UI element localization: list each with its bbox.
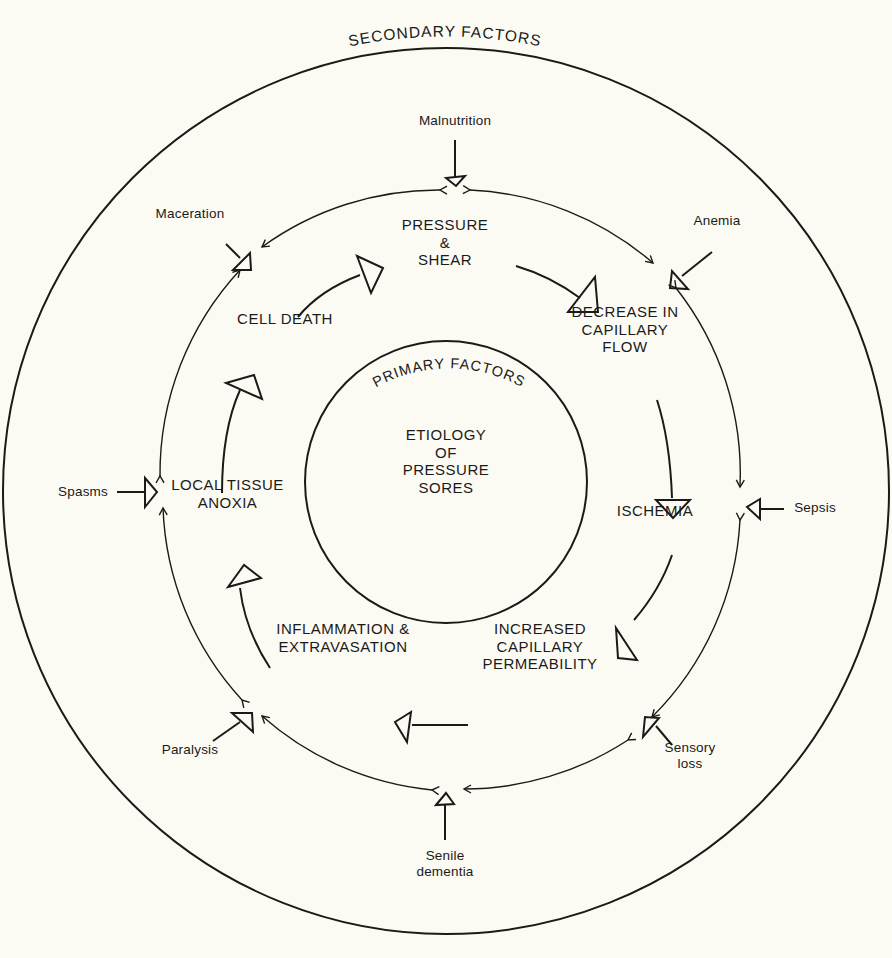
stage-increased-capillary-permeability: INCREASED CAPILLARY PERMEABILITY — [465, 620, 615, 673]
factor-sepsis: Sepsis — [780, 500, 850, 516]
arrow-maceration — [226, 244, 251, 270]
factor-sensory-loss: Sensory loss — [650, 740, 730, 772]
stage-inflammation-extravasation: INFLAMMATION & EXTRAVASATION — [258, 620, 428, 655]
factor-spasms: Spasms — [48, 484, 118, 500]
stage-cell-death: CELL DEATH — [210, 310, 360, 328]
arrow-senile-dementia — [436, 793, 454, 840]
stage-ischemia: ISCHEMIA — [605, 502, 705, 520]
factor-malnutrition: Malnutrition — [395, 113, 515, 129]
stage-decrease-capillary-flow: DECREASE IN CAPILLARY FLOW — [555, 303, 695, 356]
outer-title: SECONDARY FACTORS — [347, 23, 543, 50]
arrow-paralysis — [213, 713, 253, 741]
arrow-malnutrition — [446, 140, 465, 186]
factor-maceration: Maceration — [140, 206, 240, 222]
arrow-sepsis — [747, 499, 784, 519]
arrow-spasms — [117, 478, 157, 507]
factor-anemia: Anemia — [672, 213, 762, 229]
arrow-anemia — [670, 252, 712, 289]
factor-paralysis: Paralysis — [145, 742, 235, 758]
stage-pressure-shear: PRESSURE & SHEAR — [380, 216, 510, 269]
inner-title: PRIMARY FACTORS — [370, 355, 529, 390]
stage-local-tissue-anoxia: LOCAL TISSUE ANOXIA — [160, 476, 295, 511]
center-label: ETIOLOGY OF PRESSURE SORES — [376, 426, 516, 497]
factor-senile-dementia: Senile dementia — [400, 848, 490, 880]
